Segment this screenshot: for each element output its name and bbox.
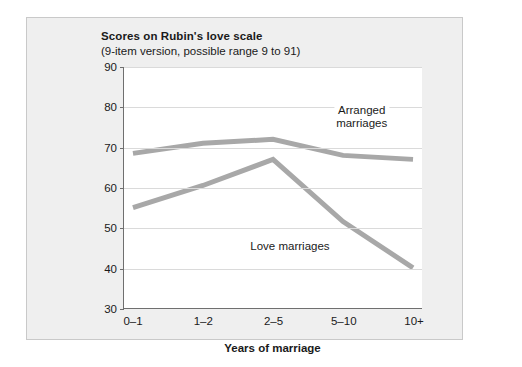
series-annotation-line: marriages	[336, 117, 387, 130]
chart-title: Scores on Rubin's love scale	[101, 30, 262, 42]
y-axis-tick-mark	[120, 228, 124, 229]
chart-subtitle: (9-item version, possible range 9 to 91)	[101, 45, 300, 57]
plot-area: 304050607080900–11–22–55–1010+Arrangedma…	[123, 67, 422, 309]
gridline	[124, 67, 422, 68]
series-line	[133, 139, 413, 159]
y-axis-tick-label: 90	[104, 61, 117, 73]
y-axis-tick-label: 30	[104, 303, 117, 315]
y-axis-tick-mark	[120, 309, 124, 310]
gridline	[124, 148, 422, 149]
y-axis-tick-mark	[120, 188, 124, 189]
y-axis-tick-label: 80	[104, 101, 117, 113]
series-annotation-line: Love marriages	[250, 240, 329, 253]
y-axis-tick-mark	[120, 269, 124, 270]
y-axis-tick-label: 50	[104, 222, 117, 234]
series-annotation: Arrangedmarriages	[334, 104, 389, 130]
series-annotation: Love marriages	[248, 240, 331, 253]
y-axis-tick-label: 40	[104, 263, 117, 275]
series-annotation-line: Arranged	[336, 104, 387, 117]
x-axis-tick-label: 10+	[404, 315, 424, 327]
gridline	[124, 228, 422, 229]
y-axis-tick-mark	[120, 148, 124, 149]
y-axis-tick-label: 60	[104, 182, 117, 194]
x-axis-tick-label: 5–10	[331, 315, 357, 327]
figure-frame: Scores on Rubin's love scale (9-item ver…	[26, 17, 463, 340]
x-axis-tick-label: 0–1	[123, 315, 142, 327]
x-axis-tick-label: 2–5	[264, 315, 283, 327]
x-axis-title: Years of marriage	[123, 342, 422, 354]
x-axis-tick-label: 1–2	[194, 315, 213, 327]
gridline	[124, 269, 422, 270]
y-axis-tick-label: 70	[104, 142, 117, 154]
y-axis-tick-mark	[120, 107, 124, 108]
gridline	[124, 188, 422, 189]
y-axis-tick-mark	[120, 67, 124, 68]
